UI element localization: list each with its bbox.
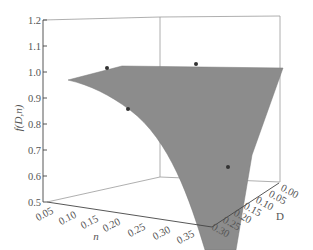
n-axis-label: n	[93, 230, 99, 242]
svg-text:0.9: 0.9	[28, 93, 41, 104]
surface-plot: 1.2 1.1 1.0 0.9 0.8 0.7 0.6 0.5 f(D,n) 0…	[0, 0, 313, 250]
svg-text:0.7: 0.7	[28, 145, 41, 156]
svg-text:0.30: 0.30	[151, 224, 172, 242]
svg-text:1.1: 1.1	[28, 41, 41, 52]
svg-text:0.35: 0.35	[175, 228, 196, 246]
z-axis-label: f(D,n)	[12, 104, 25, 131]
svg-text:0.6: 0.6	[28, 171, 41, 182]
svg-text:0.8: 0.8	[28, 119, 41, 130]
data-point	[105, 66, 109, 70]
n-tick-labels: 0.05 0.10 0.15 0.20 0.25 0.30 0.35	[34, 205, 196, 246]
data-point	[126, 107, 130, 111]
svg-text:0.20: 0.20	[101, 216, 122, 234]
svg-text:0.5: 0.5	[28, 197, 41, 208]
z-axis	[43, 20, 47, 202]
svg-text:0.10: 0.10	[57, 209, 78, 227]
svg-text:0.15: 0.15	[79, 213, 100, 231]
svg-text:1.2: 1.2	[28, 15, 41, 26]
d-axis-label: D	[276, 210, 284, 222]
z-tick-labels: 1.2 1.1 1.0 0.9 0.8 0.7 0.6 0.5	[28, 15, 41, 208]
data-point	[226, 165, 230, 169]
svg-text:0.25: 0.25	[126, 221, 147, 239]
surface	[68, 66, 283, 250]
data-point	[194, 62, 198, 66]
svg-text:1.0: 1.0	[28, 67, 41, 78]
